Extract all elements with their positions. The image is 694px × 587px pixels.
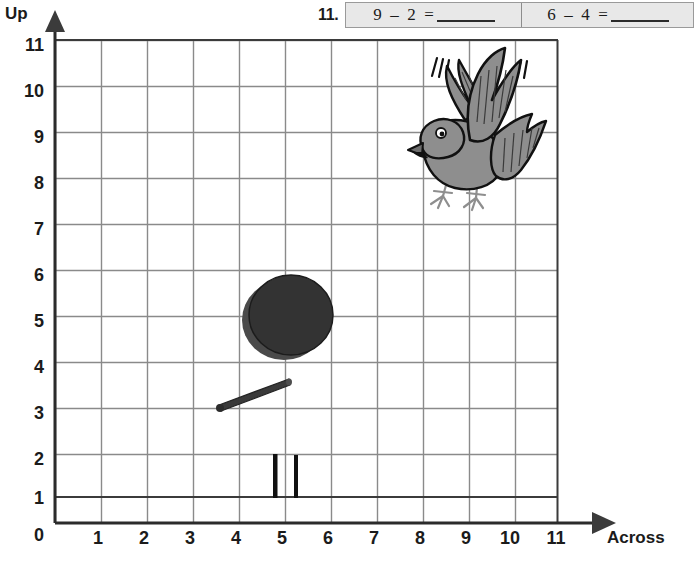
disc-icon [242, 275, 333, 360]
rod-icon [216, 379, 292, 413]
y-axis-arrow-icon [45, 10, 65, 32]
x-axis-arrow-icon [592, 512, 616, 534]
axis-lines [55, 26, 600, 523]
bird-icon [408, 48, 546, 210]
